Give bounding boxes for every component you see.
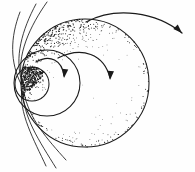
figure-root: Nested stippled spheres with circulation… [0, 0, 195, 172]
caption-layer: Nested stippled spheres with circulation… [0, 0, 195, 172]
